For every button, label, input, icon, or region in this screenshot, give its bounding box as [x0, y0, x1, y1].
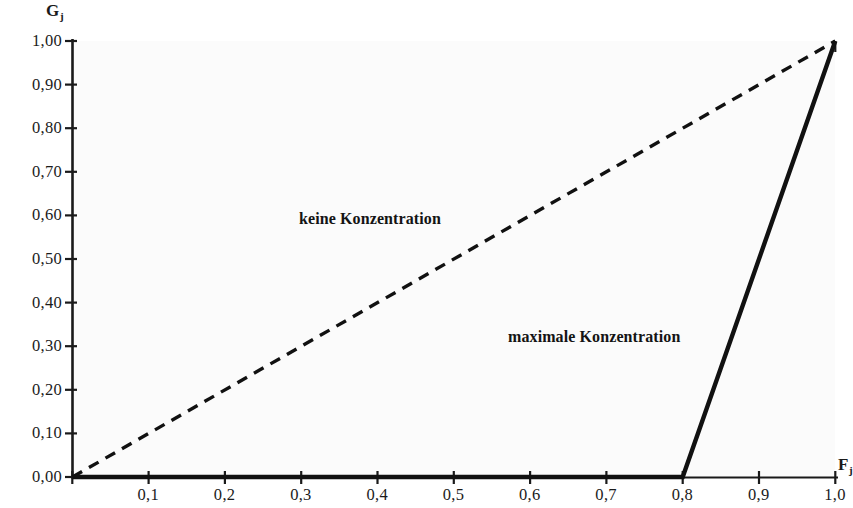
annotation-maximale-konzentration: maximale Konzentration [508, 328, 680, 346]
annotation-keine-konzentration: keine Konzentration [299, 210, 441, 228]
